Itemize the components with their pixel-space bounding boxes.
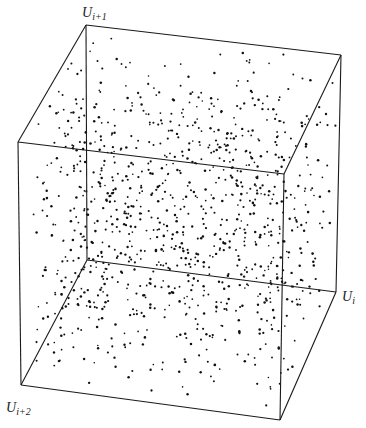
data-point — [244, 360, 247, 363]
data-point — [234, 230, 236, 232]
data-point — [268, 231, 270, 233]
data-point — [197, 260, 200, 263]
data-point — [109, 195, 111, 197]
data-point — [174, 214, 176, 216]
data-point — [186, 249, 188, 251]
data-point — [182, 250, 185, 253]
data-point — [131, 102, 133, 104]
data-point — [257, 98, 260, 101]
data-point — [209, 144, 211, 146]
data-point — [108, 263, 110, 265]
data-point — [211, 115, 213, 117]
data-point — [198, 127, 200, 129]
data-point — [267, 108, 269, 110]
data-point — [157, 229, 159, 231]
data-point — [218, 177, 220, 179]
data-point — [197, 323, 199, 325]
data-point — [38, 306, 40, 308]
data-point — [172, 233, 174, 235]
data-point — [79, 186, 81, 188]
data-point — [77, 303, 80, 306]
data-point — [240, 220, 242, 222]
data-point — [245, 267, 247, 269]
data-point — [235, 249, 237, 251]
data-point — [214, 364, 217, 367]
data-point — [272, 309, 275, 312]
data-point — [290, 272, 292, 274]
data-point — [178, 300, 181, 303]
data-point — [63, 109, 65, 111]
data-point — [196, 106, 198, 108]
data-point — [307, 164, 309, 166]
data-point — [70, 249, 73, 252]
data-point — [79, 155, 81, 157]
data-point — [303, 230, 305, 232]
data-point — [215, 149, 218, 152]
data-point — [84, 161, 86, 163]
data-point — [98, 181, 100, 183]
data-point — [164, 155, 166, 157]
data-point — [149, 307, 152, 310]
data-point — [166, 225, 168, 227]
data-point — [239, 284, 241, 286]
data-point — [72, 332, 74, 334]
data-point — [221, 200, 224, 203]
data-point — [94, 306, 96, 308]
data-point — [88, 382, 90, 384]
data-point — [191, 225, 193, 227]
data-point — [240, 273, 242, 275]
data-point — [209, 273, 211, 275]
data-point — [101, 67, 103, 69]
data-point — [71, 127, 73, 129]
data-point — [319, 195, 322, 198]
data-point — [59, 360, 61, 362]
data-point — [258, 139, 260, 141]
data-point — [42, 275, 44, 277]
data-point — [70, 62, 72, 64]
data-point — [164, 309, 166, 311]
data-point — [311, 187, 313, 189]
data-point — [146, 230, 148, 232]
data-point — [215, 301, 217, 303]
data-point — [120, 149, 122, 151]
data-point — [131, 105, 133, 107]
data-point — [112, 180, 114, 182]
data-point — [141, 171, 143, 173]
data-point — [93, 302, 95, 304]
data-point — [105, 199, 108, 202]
data-point — [249, 188, 251, 190]
data-point — [278, 347, 280, 349]
data-point — [151, 217, 153, 219]
data-point — [170, 194, 172, 196]
data-point — [106, 220, 108, 222]
data-point — [219, 157, 221, 159]
data-point — [322, 176, 324, 178]
data-point — [267, 174, 269, 176]
data-point — [83, 358, 85, 360]
data-point — [127, 179, 129, 181]
data-point — [291, 229, 293, 231]
data-point — [208, 266, 210, 268]
data-point — [287, 88, 289, 90]
data-point — [225, 194, 227, 196]
data-point — [268, 62, 270, 64]
data-point — [128, 233, 130, 235]
data-point — [53, 342, 55, 344]
data-point — [301, 125, 304, 128]
data-point — [299, 298, 301, 300]
data-point — [158, 261, 160, 263]
data-point — [162, 280, 164, 282]
data-point — [112, 231, 114, 233]
data-point — [200, 339, 202, 341]
data-point — [203, 223, 205, 225]
data-point — [54, 313, 56, 315]
data-point — [139, 192, 141, 194]
cube-edge-bottom-back-left-to-bottom-back-right — [87, 260, 336, 292]
data-point — [235, 124, 237, 126]
data-point — [284, 325, 286, 327]
data-point — [134, 261, 136, 263]
data-point — [77, 222, 79, 224]
data-point — [277, 242, 279, 244]
data-point — [254, 364, 256, 366]
data-point — [167, 285, 169, 287]
